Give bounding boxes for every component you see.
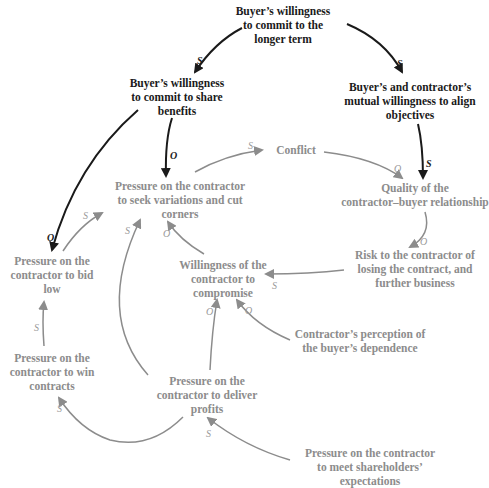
polarity-profits-win: S	[57, 403, 62, 414]
polarity-share-bidlow: O	[47, 232, 54, 243]
link-shareholders-to-profits	[208, 418, 290, 460]
node-willingness-compromise: Willingness of the contractor to comprom…	[168, 258, 278, 300]
node-win-contracts: Pressure on the contractor to win contra…	[2, 351, 102, 393]
node-share-benefits: Buyer’s willingness to commit to share b…	[112, 76, 242, 118]
link-seek-to-conflict	[195, 150, 262, 172]
polarity-perception-compromise: O	[245, 305, 252, 316]
node-shareholders: Pressure on the contractor to meet share…	[295, 446, 445, 488]
node-perception-dependence: Contractor’s perception of the buyer’s d…	[290, 327, 430, 355]
polarity-align-quality: S	[426, 158, 432, 169]
link-conflict-to-quality	[324, 152, 402, 178]
polarity-risk-compromise: S	[272, 280, 277, 291]
polarity-shareholders-profits: S	[206, 428, 211, 439]
node-risk-losing: Risk to the contractor of losing the con…	[345, 248, 485, 290]
polarity-compromise-seek: O	[163, 228, 170, 239]
polarity-share-seek: O	[170, 150, 177, 161]
node-deliver-profits: Pressure on the contractor to deliver pr…	[152, 374, 262, 416]
link-win-to-bidlow	[43, 302, 44, 346]
node-bid-low: Pressure on the contractor to bid low	[2, 254, 102, 296]
node-longer-term: Buyer’s willingness to commit to the lon…	[218, 4, 348, 46]
polarity-profits-compromise: O	[206, 306, 213, 317]
node-align-objectives: Buyer’s and contractor’s mutual willingn…	[330, 80, 489, 122]
link-profits-to-seek	[119, 220, 148, 375]
node-conflict: Conflict	[266, 143, 326, 157]
polarity-longer-align: S	[397, 58, 403, 69]
polarity-win-bidlow: S	[34, 322, 39, 333]
node-quality-relationship: Quality of the contractor–buyer relation…	[335, 181, 489, 209]
polarity-seek-conflict: S	[248, 140, 253, 151]
link-compromise-to-seek	[168, 222, 204, 254]
node-seek-variations: Pressure on the contractor to seek varia…	[105, 179, 255, 221]
polarity-quality-risk: O	[420, 236, 427, 247]
polarity-conflict-quality: O	[394, 163, 401, 174]
polarity-profits-seek: S	[125, 225, 130, 236]
link-longer-to-align	[347, 24, 402, 72]
link-align-to-quality	[418, 124, 423, 178]
link-share-to-seek	[166, 118, 172, 176]
polarity-longer-share: S	[197, 55, 203, 66]
polarity-bidlow-seek: S	[83, 210, 88, 221]
